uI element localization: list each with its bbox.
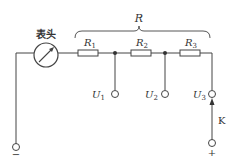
resistor-r1: [78, 50, 98, 56]
wire-left: [16, 53, 34, 144]
multirange-voltmeter-circuit: 表头 R R1 R2 R3 U1 U2 U3 K − +: [0, 0, 235, 162]
resistor-r3: [180, 50, 200, 56]
resistor-label-r2: R2: [135, 37, 148, 50]
junction-dot-1: [113, 51, 117, 55]
terminal-label-u3: U3: [193, 89, 206, 102]
terminal-u3[interactable]: [209, 91, 216, 98]
wire-r3-u3: [200, 53, 212, 90]
terminal-label-u1: U1: [92, 89, 105, 102]
resistor-r2: [131, 50, 151, 56]
junction-dot-2: [163, 51, 167, 55]
meter: [34, 43, 58, 67]
switch-k[interactable]: [209, 98, 216, 147]
switch-label: K: [218, 115, 226, 126]
resistor-label-r1: R1: [83, 37, 96, 50]
meter-label: 表头: [35, 28, 56, 40]
resistor-label-r3: R3: [184, 37, 197, 50]
negative-sign: −: [12, 149, 20, 160]
terminal-u2[interactable]: [162, 91, 169, 98]
brace-label: R: [134, 12, 143, 25]
terminal-u1[interactable]: [112, 91, 119, 98]
positive-sign: +: [208, 147, 216, 158]
terminal-label-u2: U2: [145, 89, 158, 102]
